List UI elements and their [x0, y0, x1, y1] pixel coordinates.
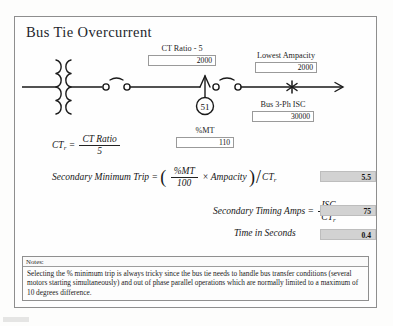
ct-ratio-input[interactable]: 2000	[148, 55, 216, 66]
smt-denominator: 100	[171, 178, 198, 189]
field-bus-3ph-isc: Bus 3-Ph ISC 30000	[252, 100, 314, 122]
ctr-lhs: CT	[52, 140, 64, 150]
transformer-primary-winding	[56, 60, 61, 114]
field-ct-ratio: CT Ratio - 5 2000	[148, 44, 216, 66]
page-canvas: Bus Tie Overcurrent	[0, 0, 393, 326]
transformer-secondary-winding	[66, 60, 71, 114]
field-percent-mt: %MT 110	[176, 126, 234, 148]
smt-divider: CT	[262, 172, 274, 182]
equation-secondary-minimum-trip: Secondary Minimum Trip = ( %MT 100 × Amp…	[52, 166, 276, 189]
notes-panel: Notes: Selecting the % minimum trip is a…	[22, 256, 369, 301]
breaker-2-arc	[220, 78, 234, 80]
bus-3ph-isc-input[interactable]: 30000	[252, 111, 314, 122]
percent-mt-input[interactable]: 110	[176, 137, 234, 148]
smt-divider-subscript: r	[274, 176, 277, 183]
notes-body: Selecting the % minimum trip is always t…	[23, 267, 368, 300]
ctr-lhs-subscript: r	[64, 144, 67, 151]
breaker-1-contact-right	[124, 84, 130, 90]
smt-paren-open: (	[160, 171, 166, 184]
field-lowest-ampacity: Lowest Ampacity 2000	[255, 51, 317, 73]
sta-equals: =	[308, 206, 314, 216]
equation-time-in-seconds: Time in Seconds	[234, 228, 296, 238]
smt-label: Secondary Minimum Trip	[52, 172, 149, 182]
breaker-1-contact-left	[103, 84, 109, 90]
sta-label: Secondary Timing Amps	[213, 206, 305, 216]
breaker-2-contact-left	[213, 84, 219, 90]
ctr-numerator: CT Ratio	[79, 134, 119, 146]
smt-factor: Ampacity	[211, 172, 247, 182]
bus-3ph-isc-label: Bus 3-Ph ISC	[252, 100, 314, 110]
ctr-fraction: CT Ratio 5	[79, 134, 119, 157]
ct-ratio-label: CT Ratio - 5	[148, 44, 216, 54]
result-time-in-seconds: 0.4	[320, 229, 376, 240]
time-label: Time in Seconds	[234, 228, 296, 238]
breaker-2-contact-right	[235, 84, 241, 90]
notes-header: Notes:	[23, 257, 368, 267]
result-secondary-minimum-trip: 5.5	[320, 171, 376, 182]
percent-mt-label: %MT	[176, 126, 234, 136]
sta-den-subscript: r	[333, 216, 336, 223]
ctr-denominator: 5	[79, 146, 119, 157]
ctr-equals: =	[69, 140, 75, 150]
smt-times: ×	[202, 172, 208, 182]
page-title: Bus Tie Overcurrent	[26, 24, 152, 41]
scan-artifact	[3, 317, 29, 322]
lowest-ampacity-label: Lowest Ampacity	[255, 51, 317, 61]
result-secondary-timing-amps: 75	[320, 205, 376, 216]
smt-numerator: %MT	[171, 166, 198, 178]
smt-equals: =	[151, 172, 157, 182]
breaker-1-arc	[110, 78, 123, 80]
relay-51-label: 51	[201, 102, 210, 112]
smt-fraction: %MT 100	[171, 166, 198, 189]
equation-ct-r: CTr = CT Ratio 5	[52, 134, 122, 157]
lowest-ampacity-input[interactable]: 2000	[255, 62, 317, 73]
